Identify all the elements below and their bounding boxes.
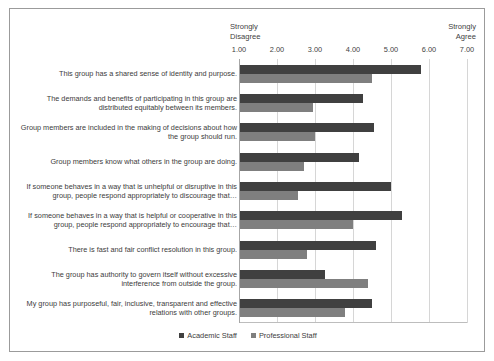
bar-academic-staff (239, 65, 421, 74)
y-axis-category-label: Group members are included in the making… (18, 123, 237, 142)
y-axis-category-label: If someone behaves in a way that is help… (18, 211, 237, 230)
axis-anchor-high-label: Strongly Agree (400, 22, 476, 41)
y-axis-category-labels: This group has a shared sense of identit… (18, 59, 237, 323)
bar-academic-staff (239, 153, 359, 162)
bar-professional-staff (239, 103, 313, 112)
x-axis-tick-label: 7.00 (460, 45, 474, 54)
bar-professional-staff (239, 220, 353, 229)
bar-professional-staff (239, 191, 298, 200)
bar-academic-staff (239, 211, 402, 220)
bar-professional-staff (239, 250, 307, 259)
legend-item[interactable]: Academic Staff (179, 331, 237, 340)
y-axis-category-label: This group has a shared sense of identit… (18, 69, 237, 78)
y-axis-category-label: My group has purposeful, fair, inclusive… (18, 299, 237, 318)
bar-academic-staff (239, 299, 372, 308)
legend-label: Professional Staff (259, 331, 317, 340)
bar-academic-staff (239, 94, 363, 103)
y-axis-category-label: Group members know what others in the gr… (18, 157, 237, 166)
bar-group (239, 241, 467, 259)
bar-academic-staff (239, 182, 391, 191)
y-axis-category-label: The group has authority to govern itself… (18, 270, 237, 289)
bar-group (239, 270, 467, 288)
axis-anchor-low-label: Strongly Disagree (230, 22, 260, 41)
bar-professional-staff (239, 162, 304, 171)
y-axis-category-label: The demands and benefits of participatin… (18, 94, 237, 113)
x-axis-baseline (239, 322, 467, 323)
y-axis-line (239, 59, 240, 323)
bar-academic-staff (239, 241, 376, 250)
legend-item[interactable]: Professional Staff (251, 331, 317, 340)
x-axis-tick-label: 3.00 (308, 45, 322, 54)
bar-group (239, 211, 467, 229)
legend-swatch-icon (251, 333, 256, 338)
bar-group (239, 94, 467, 112)
bar-professional-staff (239, 308, 345, 317)
plot-area (239, 59, 467, 323)
x-axis-tick-label: 5.00 (384, 45, 398, 54)
chart-container: Strongly Disagree Strongly Agree 1.002.0… (9, 8, 485, 352)
legend-swatch-icon (179, 333, 184, 338)
y-axis-category-label: There is fast and fair conflict resoluti… (18, 245, 237, 254)
bar-professional-staff (239, 279, 368, 288)
bar-professional-staff (239, 74, 372, 83)
bar-group (239, 299, 467, 317)
bar-group (239, 123, 467, 141)
chart-legend: Academic StaffProfessional Staff (10, 331, 486, 340)
bar-group (239, 182, 467, 200)
bar-group (239, 65, 467, 83)
y-axis-category-label: If someone behaves in a way that is unhe… (18, 182, 237, 201)
x-axis-tick-label: 4.00 (346, 45, 360, 54)
x-axis-tick-label: 1.00 (232, 45, 246, 54)
bar-academic-staff (239, 270, 325, 279)
x-axis-tick-label: 6.00 (422, 45, 436, 54)
gridline (467, 59, 468, 323)
chart-axis-header: Strongly Disagree Strongly Agree 1.002.0… (10, 9, 486, 59)
x-axis-tick-label: 2.00 (270, 45, 284, 54)
legend-label: Academic Staff (187, 331, 237, 340)
bar-group (239, 153, 467, 171)
bar-professional-staff (239, 132, 315, 141)
bar-academic-staff (239, 123, 374, 132)
